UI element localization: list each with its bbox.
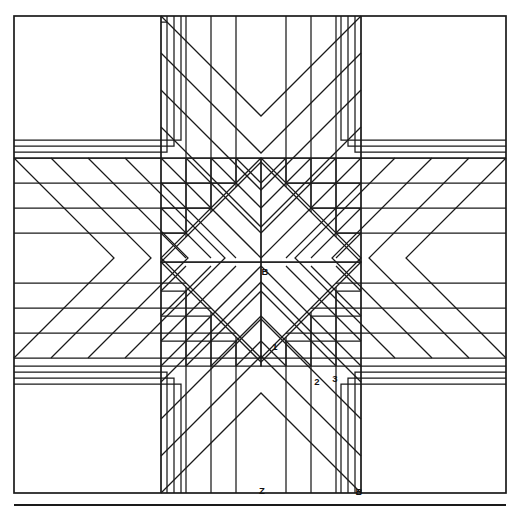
- page-background: [0, 0, 520, 517]
- quilt-pattern-figure: B 1 2 3 Z B: [0, 0, 520, 517]
- label-B-corner: B: [356, 486, 363, 497]
- quilt-diagram-page: B 1 2 3 Z B: [0, 0, 520, 517]
- label-3: 3: [332, 373, 337, 384]
- label-2: 2: [314, 376, 319, 387]
- label-Z: Z: [259, 485, 265, 496]
- label-1: 1: [272, 341, 278, 352]
- label-B-center: B: [262, 266, 269, 277]
